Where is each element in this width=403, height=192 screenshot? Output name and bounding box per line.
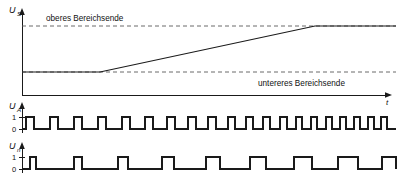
lower-range-label: untereres Bereichsende [258,79,345,88]
ua-tick-label-high: 1 [12,113,16,122]
un-tick-label-high: 1 [12,153,16,162]
un-axis-label-subscript: n [17,146,21,153]
digital-signal-panel-n: U n 1 0 [9,141,396,174]
ua-tick-label-low: 0 [12,125,16,134]
ua-axis-label-subscript: A [16,106,21,113]
un-tick-label-low: 0 [12,165,16,174]
ua-axis-label: U [9,101,16,111]
un-square-wave [22,157,396,169]
analog-ramp-panel: U S t oberes Bereichsende untereres Bere… [9,5,396,107]
ramp-signal-curve [22,26,396,72]
digital-signal-panel-a: U A 1 0 [9,101,396,134]
x-axis-label-t: t [386,98,389,107]
un-axis-label: U [9,141,16,151]
x-axis-arrow-icon [385,92,392,98]
ua-square-wave [22,117,396,129]
y-axis-label-us: U [9,5,16,15]
upper-range-label: oberes Bereichsende [46,14,124,23]
signal-timing-diagram: U S t oberes Bereichsende untereres Bere… [0,0,403,192]
